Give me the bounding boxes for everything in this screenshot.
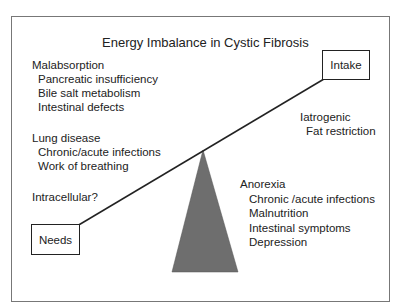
iatrogenic-heading: Iatrogenic — [300, 110, 351, 124]
fulcrum-triangle — [172, 150, 238, 272]
anorexia-item: Intestinal symptoms — [249, 221, 351, 235]
lung-disease-heading: Lung disease — [32, 131, 100, 145]
iatrogenic-item: Fat restriction — [306, 124, 376, 138]
malabsorption-heading: Malabsorption — [32, 58, 104, 72]
lung-disease-item: Work of breathing — [38, 159, 129, 173]
anorexia-heading: Anorexia — [240, 177, 285, 191]
anorexia-item: Depression — [249, 235, 307, 249]
malabsorption-item: Bile salt metabolism — [38, 86, 140, 100]
anorexia-item: Chronic /acute infections — [249, 192, 375, 206]
needs-box: Needs — [31, 224, 80, 255]
anorexia-item: Malnutrition — [249, 206, 308, 220]
diagram-title: Energy Imbalance in Cystic Fibrosis — [102, 36, 309, 50]
intake-box: Intake — [322, 50, 370, 80]
lung-disease-item: Chronic/acute infections — [38, 145, 161, 159]
malabsorption-item: Intestinal defects — [38, 100, 124, 114]
malabsorption-item: Pancreatic insufficiency — [38, 72, 158, 86]
intracellular-label: Intracellular? — [32, 190, 98, 204]
